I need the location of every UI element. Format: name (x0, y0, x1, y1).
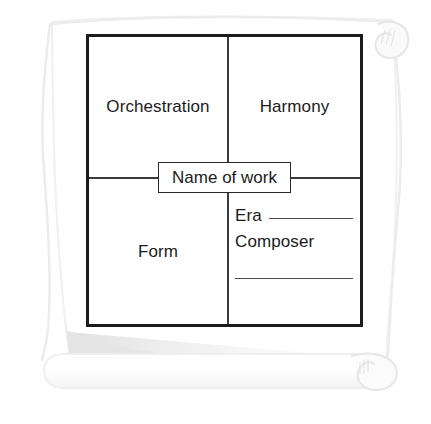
curl-hatching-bottom (360, 359, 368, 374)
name-of-work-label: Name of work (172, 168, 277, 188)
paper-left-edge (42, 24, 50, 360)
field-row-composer[interactable]: Composer (235, 232, 353, 252)
paper-top-edge (52, 17, 390, 24)
curl-hatching-top (381, 29, 395, 46)
scroll-curl-bottom-right (352, 354, 397, 390)
field-rule-era[interactable] (269, 218, 353, 219)
screenshot-root: Orchestration Harmony Form Era Composer … (0, 0, 431, 424)
scroll-roll-bottom (44, 354, 392, 388)
quadrant-top-left[interactable]: Orchestration (89, 37, 227, 177)
quadrant-bottom-right[interactable]: Era Composer (229, 179, 360, 324)
paper-shadow (68, 332, 392, 368)
paper-shadow-core (66, 330, 300, 366)
quadrant-label-harmony: Harmony (260, 97, 330, 117)
field-label-era: Era (235, 206, 262, 226)
scroll-curl-top-right (376, 22, 409, 58)
field-rule-composer[interactable] (235, 278, 353, 279)
quadrant-label-form: Form (138, 242, 178, 262)
field-label-composer: Composer (235, 232, 314, 252)
paper-right-edge (388, 24, 401, 356)
quadrant-top-right[interactable]: Harmony (229, 37, 360, 177)
field-row-era[interactable]: Era (235, 206, 353, 226)
name-of-work-box[interactable]: Name of work (158, 162, 291, 193)
quadrant-bottom-left[interactable]: Form (89, 179, 227, 324)
quadrant-label-orchestration: Orchestration (106, 97, 209, 117)
